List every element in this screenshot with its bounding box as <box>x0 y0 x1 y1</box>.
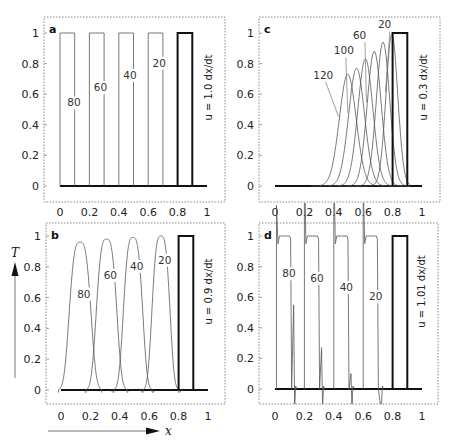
x-tick-label: 1 <box>419 206 426 219</box>
y-tick-label: 0.6 <box>237 291 255 304</box>
velocity-label: u = 0.3 dx/dt <box>418 54 429 120</box>
y-tick-label: 1 <box>34 230 41 243</box>
velocity-label: u = 1.0 dx/dt <box>203 54 214 120</box>
x-tick-label: 0.4 <box>325 410 343 423</box>
y-tick-label: 0.4 <box>237 322 255 335</box>
y-tick-label: 0.8 <box>22 58 40 71</box>
series-curve-100 <box>320 68 394 186</box>
y-tick-label: 0.6 <box>22 88 40 101</box>
x-tick-label: 0.6 <box>354 410 372 423</box>
curve-label: 80 <box>67 96 80 108</box>
y-tick-label: 0 <box>247 180 254 193</box>
x-tick-label: 0.6 <box>140 410 158 423</box>
x-tick-label: 0.2 <box>296 410 314 423</box>
panel-c: 00.20.40.60.8100.20.40.60.81cu = 0.3 dx/… <box>237 17 441 219</box>
y-tick-label: 0.8 <box>237 58 255 71</box>
figure: 00.20.40.60.8100.20.40.60.81au = 1.0 dx/… <box>0 0 449 442</box>
y-tick-label: 0.2 <box>22 149 40 162</box>
panel-a: 00.20.40.60.8100.20.40.60.81au = 1.0 dx/… <box>22 17 226 219</box>
y-tick-label: 0 <box>247 383 254 396</box>
panel-b: 00.20.40.60.8100.20.40.60.81bu = 0.9 dx/… <box>24 223 226 423</box>
x-tick-label: 0 <box>272 410 279 423</box>
x-tick-label: 0.4 <box>111 410 129 423</box>
plot-frame <box>44 17 225 202</box>
y-tick-label: 0.6 <box>237 88 255 101</box>
y-tick-label: 1 <box>247 27 254 40</box>
x-tick-label: 0.8 <box>169 206 187 219</box>
curve-label: 100 <box>334 44 354 56</box>
panel-label: a <box>49 23 56 36</box>
curve-label: 60 <box>104 269 117 281</box>
arrow-up-icon <box>12 262 19 276</box>
y-tick-label: 0.8 <box>237 261 255 274</box>
arrow-right-icon <box>146 428 160 435</box>
x-tick-label: 0 <box>58 410 65 423</box>
series-curve-40 <box>119 33 134 186</box>
curve-label: 60 <box>94 81 107 93</box>
initial-condition-box <box>179 236 194 390</box>
y-tick-label: 0 <box>34 384 41 397</box>
x-axis-label: x <box>165 424 172 438</box>
curve-label: 120 <box>313 69 333 81</box>
curve-label: 60 <box>310 272 323 284</box>
curve-label: 40 <box>123 69 136 81</box>
x-tick-label: 1 <box>205 410 212 423</box>
x-axis-arrow: x <box>48 424 172 438</box>
x-tick-label: 0.8 <box>384 410 402 423</box>
velocity-label: u = 1.01 dx/dt <box>416 255 427 328</box>
curve-label: 20 <box>369 290 382 302</box>
y-tick-label: 0.6 <box>24 292 42 305</box>
y-axis-label: T <box>11 246 20 260</box>
y-tick-label: 0.4 <box>22 119 40 132</box>
x-tick-label: 0 <box>272 206 279 219</box>
y-tick-label: 1 <box>32 27 39 40</box>
series-curve-80 <box>60 33 75 186</box>
series-curve-20 <box>355 35 410 187</box>
y-tick-label: 1 <box>247 230 254 243</box>
curve-label: 80 <box>77 288 90 300</box>
curve-label: 20 <box>153 57 166 69</box>
y-tick-label: 0.4 <box>24 322 42 335</box>
curve-label: 20 <box>378 18 391 30</box>
x-tick-label: 1 <box>419 410 426 423</box>
y-axis-arrow: T <box>11 246 20 378</box>
velocity-label: u = 0.9 dx/dt <box>203 258 214 324</box>
y-tick-label: 0.2 <box>237 149 255 162</box>
y-tick-label: 0.8 <box>24 261 42 274</box>
initial-condition-box <box>393 236 408 389</box>
curve-label: 40 <box>130 260 143 272</box>
x-tick-label: 0.6 <box>139 206 157 219</box>
panel-label: b <box>51 229 59 242</box>
y-tick-label: 0.2 <box>237 352 255 365</box>
curve-label: 20 <box>158 254 171 266</box>
curve-label: 40 <box>340 281 353 293</box>
x-tick-label: 0.8 <box>384 206 402 219</box>
curve-label: 80 <box>282 267 295 279</box>
x-tick-label: 0 <box>57 206 64 219</box>
panel-label: d <box>264 229 272 242</box>
plot-frame <box>46 223 225 404</box>
x-tick-label: 0.2 <box>81 206 99 219</box>
x-tick-label: 0.4 <box>110 206 128 219</box>
panel-label: c <box>264 23 271 36</box>
curve-label: 60 <box>353 29 366 41</box>
x-tick-label: 0.8 <box>170 410 188 423</box>
initial-condition-box <box>178 33 193 186</box>
series-curve-120 <box>311 74 385 186</box>
plot-area <box>60 33 207 186</box>
y-tick-label: 0.4 <box>237 119 255 132</box>
series-curve-80 <box>276 205 296 407</box>
series-curve-60 <box>89 33 104 186</box>
x-tick-label: 0.2 <box>82 410 100 423</box>
x-tick-label: 1 <box>204 206 211 219</box>
y-tick-label: 0.2 <box>24 353 42 366</box>
y-tick-label: 0 <box>32 180 39 193</box>
